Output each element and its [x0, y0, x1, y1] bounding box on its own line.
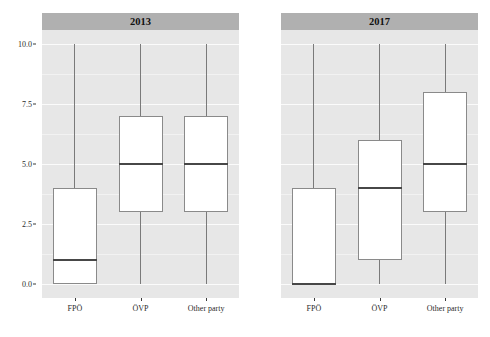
facet-strip-label: 2017: [281, 13, 478, 30]
facet-strip-label: 2013: [42, 13, 239, 30]
x-tick-mark: [206, 298, 207, 301]
x-tick-label: FPÖ: [306, 304, 321, 313]
y-axis-ticks: 0.02.55.07.510.0: [0, 30, 36, 298]
facet-panel-2013: 2013: [42, 13, 239, 298]
facet-panel-2017: 2017: [281, 13, 478, 298]
x-tick-label: ÖVP: [371, 304, 387, 313]
y-tick-mark: [33, 164, 36, 165]
x-tick-mark: [445, 298, 446, 301]
y-tick-label: 5.0: [22, 160, 32, 169]
boxplot-whisker-upper: [206, 44, 207, 116]
boxplot-whisker-upper: [445, 44, 446, 92]
y-tick-label: 2.5: [22, 220, 32, 229]
x-tick-mark: [141, 298, 142, 301]
boxplot-box: [53, 188, 97, 284]
boxplot-median: [184, 163, 228, 165]
x-tick-mark: [314, 298, 315, 301]
y-tick-mark: [33, 104, 36, 105]
gridline-major: [42, 284, 239, 285]
boxplot-median: [119, 163, 163, 165]
boxplot-median: [53, 259, 97, 261]
boxplot-median: [423, 163, 467, 165]
x-axis-ticks: FPÖÖVPOther party: [281, 298, 478, 322]
boxplot-median: [292, 283, 336, 285]
boxplot-whisker-upper: [140, 44, 141, 116]
boxplot-box: [358, 140, 402, 260]
plot-area: [42, 30, 239, 298]
x-tick-mark: [75, 298, 76, 301]
x-tick-label: Other party: [427, 304, 464, 313]
boxplot-whisker-upper: [313, 44, 314, 188]
x-tick-label: ÖVP: [132, 304, 148, 313]
boxplot-whisker-lower: [206, 212, 207, 284]
boxplot-whisker-lower: [379, 260, 380, 284]
boxplot-box: [423, 92, 467, 212]
x-tick-mark: [380, 298, 381, 301]
boxplot-figure: Agreement with statement 0.02.55.07.510.…: [0, 0, 490, 337]
y-tick-label: 7.5: [22, 100, 32, 109]
y-tick-mark: [33, 224, 36, 225]
x-axis-ticks: FPÖÖVPOther party: [42, 298, 239, 322]
y-tick-label: 0.0: [22, 280, 32, 289]
y-tick-label: 10.0: [18, 40, 32, 49]
x-tick-label: Other party: [188, 304, 225, 313]
boxplot-whisker-upper: [74, 44, 75, 188]
boxplot-whisker-upper: [379, 44, 380, 140]
plot-area: [281, 30, 478, 298]
boxplot-box: [292, 188, 336, 284]
x-tick-label: FPÖ: [67, 304, 82, 313]
y-tick-mark: [33, 284, 36, 285]
boxplot-whisker-lower: [445, 212, 446, 284]
boxplot-whisker-lower: [140, 212, 141, 284]
y-tick-mark: [33, 44, 36, 45]
boxplot-median: [358, 187, 402, 189]
